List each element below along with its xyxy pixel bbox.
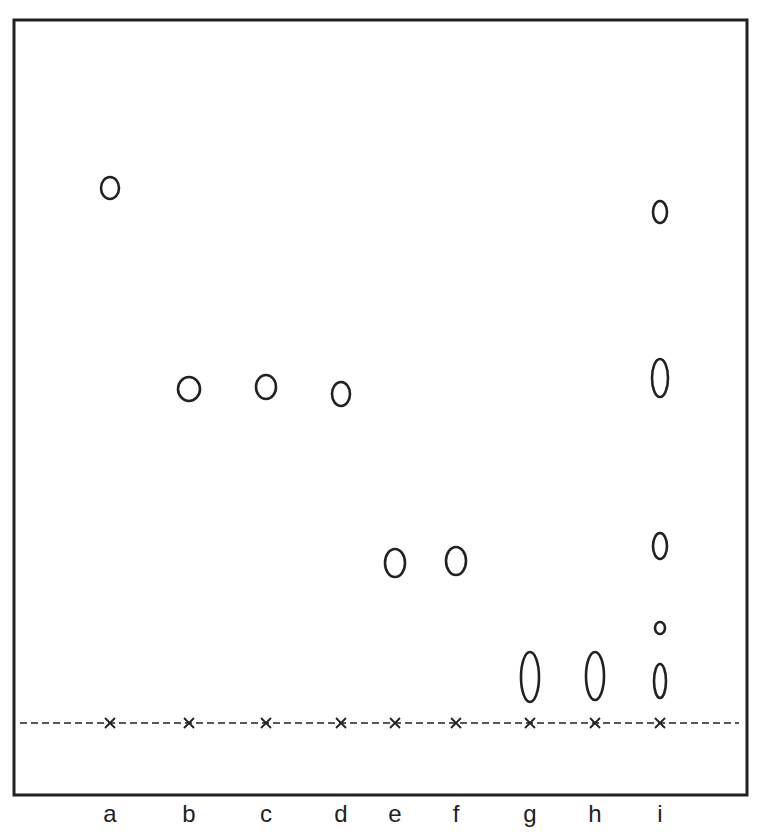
lane-label-g: g (523, 800, 536, 828)
lane-label-e: e (388, 800, 401, 828)
lane-label-d: d (334, 800, 347, 828)
origin-line (20, 718, 739, 728)
spot-h-1 (586, 652, 604, 700)
spot-i-3 (653, 533, 667, 559)
lane-label-i: i (657, 800, 662, 828)
lane-label-f: f (453, 800, 460, 828)
spot-g-1 (521, 652, 539, 702)
spot-f-1 (446, 547, 466, 575)
spot-b-1 (178, 377, 200, 401)
spot-e-1 (385, 549, 405, 577)
spot-i-5 (654, 664, 666, 698)
spot-c-1 (256, 375, 276, 399)
lane-label-a: a (103, 800, 116, 828)
lane-label-c: c (260, 800, 272, 828)
spot-d-1 (332, 382, 350, 406)
plate-border (14, 20, 747, 795)
spots (101, 177, 668, 702)
plate-frame (14, 20, 747, 795)
spot-i-1 (653, 201, 667, 223)
spot-i-2 (652, 359, 668, 397)
spot-a-1 (101, 177, 119, 199)
lane-label-h: h (588, 800, 601, 828)
tlc-plate (0, 0, 760, 840)
lane-label-b: b (182, 800, 195, 828)
spot-i-4 (655, 622, 665, 634)
